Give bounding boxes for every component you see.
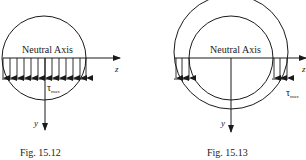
figure-caption: Fig. 15.12 [20, 147, 61, 158]
right-shear-arrows [274, 58, 287, 78]
left-shear-arrows [176, 58, 189, 78]
figure-15-13 [174, 0, 306, 132]
y-axis-label: y [33, 118, 38, 128]
z-axis-label: z [114, 64, 119, 74]
diagram-canvas: Neutral Axis z y τmax Fig. 15.12 Neutral… [0, 0, 306, 160]
neutral-axis-label: Neutral Axis [210, 44, 261, 55]
z-axis-label: z [301, 64, 306, 74]
neutral-axis-label: Neutral Axis [22, 44, 73, 55]
figure-15-12 [2, 16, 120, 130]
y-axis-label: y [220, 118, 225, 128]
tau-max-label: τmax [47, 82, 60, 94]
figure-caption: Fig. 15.13 [207, 147, 248, 158]
tau-max-label: τmax [286, 87, 299, 99]
